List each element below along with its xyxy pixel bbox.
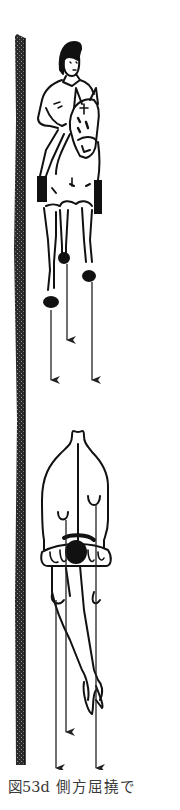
rider-torso bbox=[38, 80, 62, 128]
horse-leg-left-front bbox=[44, 208, 50, 290]
horse-leg-left-hind bbox=[60, 210, 62, 258]
figure-caption: 図53d側方屈撓で bbox=[8, 775, 180, 796]
horse-leg-right bbox=[82, 208, 86, 262]
wall bbox=[14, 34, 25, 765]
horse-neck bbox=[52, 566, 89, 700]
rider-boot bbox=[37, 176, 47, 202]
horse-top-view bbox=[41, 431, 111, 714]
horse-head-topview bbox=[84, 682, 96, 714]
hind-hoof-mark bbox=[58, 512, 68, 520]
hind-hoof-mark bbox=[88, 496, 100, 505]
horse-body-outline bbox=[42, 431, 108, 550]
hoof bbox=[44, 297, 58, 307]
front-track-arrows bbox=[51, 264, 92, 380]
hoof bbox=[59, 253, 69, 263]
figure-number: 図53d bbox=[8, 779, 50, 795]
rider-head-topview bbox=[66, 541, 86, 563]
hoof bbox=[83, 271, 95, 281]
dressage-figure bbox=[0, 0, 180, 770]
caption-text: 側方屈撓で bbox=[56, 779, 136, 795]
